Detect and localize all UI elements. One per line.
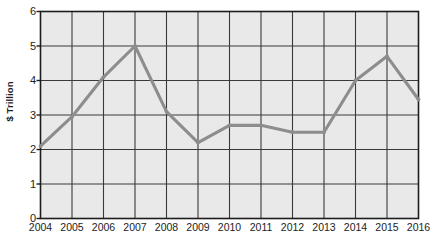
plot-area <box>0 0 441 244</box>
x-tick-label: 2016 <box>399 222 439 233</box>
line-chart: $ Trillion 0123456 200420052006200720082… <box>0 0 441 244</box>
x-axis-tick-labels: 2004200520062007200820092010201120122013… <box>0 222 441 242</box>
